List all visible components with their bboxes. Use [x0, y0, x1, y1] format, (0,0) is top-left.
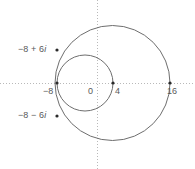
point-marker-16: [168, 81, 171, 84]
label-neg8-minus-6i: −8 − 6i: [18, 110, 46, 120]
plot-canvas: [0, 0, 195, 169]
label-origin: 0: [88, 86, 93, 96]
label-sixteen: 16: [167, 86, 177, 96]
imaginary-unit-glyph-upper: i: [44, 44, 46, 54]
imaginary-unit-glyph-lower: i: [44, 110, 46, 120]
point-marker-neg8-minus-6i: [55, 114, 58, 117]
label-neg8-plus-6i-text: −8 + 6: [18, 44, 44, 54]
label-four: 4: [115, 86, 120, 96]
complex-plane-figure: −8 + 6i −8 − 6i −8 0 4 16: [0, 0, 195, 169]
point-marker-4: [111, 81, 114, 84]
label-neg8: −8: [43, 86, 53, 96]
label-neg8-minus-6i-text: −8 − 6: [18, 110, 44, 120]
label-neg8-plus-6i: −8 + 6i: [18, 44, 46, 54]
point-marker-neg8: [55, 81, 58, 84]
point-marker-neg8-plus-6i: [55, 48, 58, 51]
